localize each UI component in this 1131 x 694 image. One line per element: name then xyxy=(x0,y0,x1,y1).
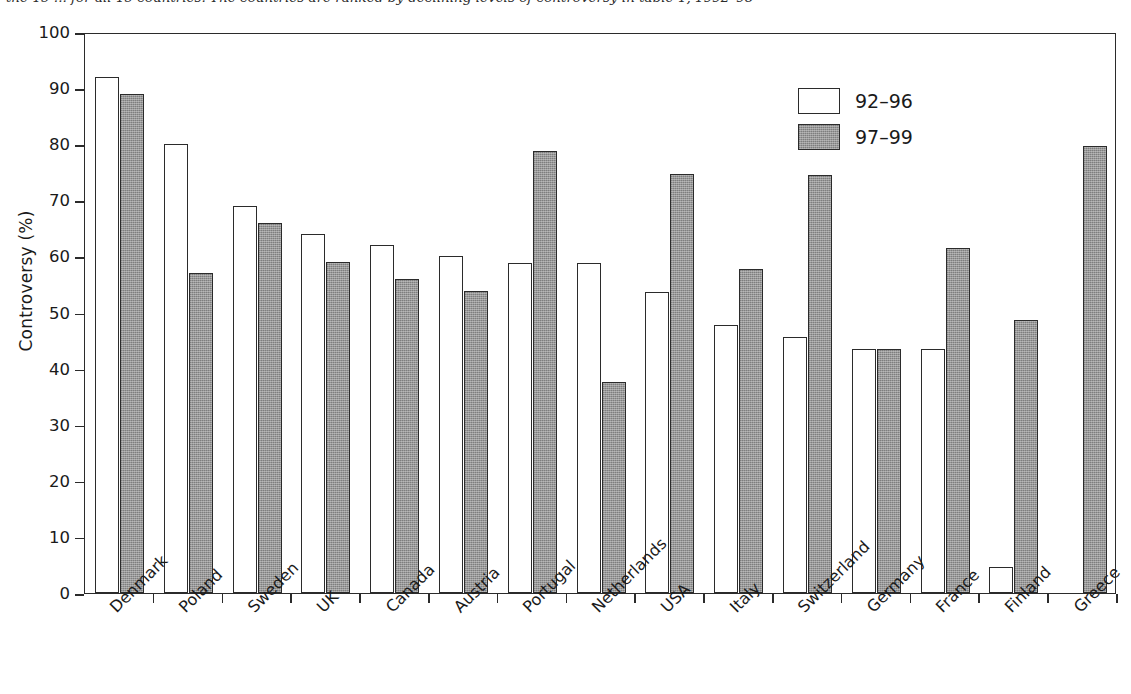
bar xyxy=(120,94,144,593)
x-axis-tick-mark xyxy=(222,594,224,603)
bar xyxy=(714,325,738,593)
legend-item: 97–99 xyxy=(798,122,913,151)
bar xyxy=(258,223,282,593)
bar xyxy=(1014,320,1038,593)
y-axis-tick-mark xyxy=(75,145,84,147)
legend-item: 92–96 xyxy=(798,86,913,115)
legend-swatch-icon xyxy=(798,88,840,114)
y-axis-tick-label: 80 xyxy=(49,135,70,154)
x-axis-tick-mark xyxy=(497,594,499,603)
y-axis-tick: 80 xyxy=(0,145,84,146)
x-axis-tick-mark xyxy=(153,594,155,603)
plot-area: 92–96 97–99 xyxy=(84,33,1116,594)
bar xyxy=(326,262,350,593)
y-axis-tick-mark xyxy=(75,257,84,259)
y-axis-tick-label: 90 xyxy=(49,79,70,98)
y-axis-tick: 60 xyxy=(0,257,84,258)
bar xyxy=(370,245,394,593)
bar xyxy=(533,151,557,593)
x-axis-tick-mark xyxy=(978,594,980,603)
legend-label: 97–99 xyxy=(855,126,913,148)
bar xyxy=(670,174,694,593)
x-axis-tick-mark xyxy=(1116,594,1118,603)
y-axis-tick-label: 60 xyxy=(49,247,70,266)
y-axis-tick: 90 xyxy=(0,89,84,90)
legend-label: 92–96 xyxy=(855,90,913,112)
bar xyxy=(989,567,1013,593)
x-axis-tick-mark xyxy=(566,594,568,603)
bar xyxy=(877,349,901,593)
bar xyxy=(95,77,119,593)
y-axis-tick: 0 xyxy=(0,594,84,595)
y-axis-tick-mark xyxy=(75,538,84,540)
y-axis-tick-mark xyxy=(75,482,84,484)
y-axis-tick: 100 xyxy=(0,33,84,34)
y-axis-tick-label: 50 xyxy=(49,304,70,323)
y-axis-title: Controversy (%) xyxy=(16,1,42,562)
y-axis-tick: 30 xyxy=(0,426,84,427)
y-axis-tick-mark xyxy=(75,426,84,428)
bar xyxy=(577,263,601,593)
x-axis-tick-mark xyxy=(634,594,636,603)
x-axis-tick-mark xyxy=(772,594,774,603)
bar xyxy=(783,337,807,593)
bar xyxy=(233,206,257,593)
bar xyxy=(301,234,325,593)
y-axis-tick-label: 70 xyxy=(49,191,70,210)
y-axis-tick-mark xyxy=(75,370,84,372)
y-axis-tick: 50 xyxy=(0,314,84,315)
x-axis-tick-mark xyxy=(359,594,361,603)
y-axis-tick-label: 10 xyxy=(49,528,70,547)
bar xyxy=(439,256,463,593)
y-axis-tick: 70 xyxy=(0,201,84,202)
bar-chart: Controversy (%) 0102030405060708090100 9… xyxy=(0,0,1131,694)
bar xyxy=(921,349,945,593)
bar xyxy=(946,248,970,593)
y-axis-tick-mark xyxy=(75,594,84,596)
legend: 92–96 97–99 xyxy=(798,86,913,158)
x-axis-tick-mark xyxy=(428,594,430,603)
y-axis-tick-mark xyxy=(75,33,84,35)
bar xyxy=(602,382,626,593)
bar xyxy=(808,175,832,594)
bar xyxy=(464,291,488,593)
y-axis-tick-mark xyxy=(75,314,84,316)
y-axis-tick-mark xyxy=(75,201,84,203)
x-axis-tick-mark xyxy=(910,594,912,603)
y-axis-tick: 20 xyxy=(0,482,84,483)
bar xyxy=(164,144,188,593)
y-axis-tick-mark xyxy=(75,89,84,91)
y-axis-tick-label: 30 xyxy=(49,416,70,435)
x-axis-tick-mark xyxy=(841,594,843,603)
y-axis-tick-label: 100 xyxy=(39,23,71,42)
x-axis-tick-mark xyxy=(1047,594,1049,603)
bar xyxy=(395,279,419,593)
legend-swatch-icon xyxy=(798,124,840,150)
bar xyxy=(1083,146,1107,593)
y-axis-tick-label: 0 xyxy=(60,584,71,603)
y-axis-tick: 10 xyxy=(0,538,84,539)
bar xyxy=(508,263,532,593)
y-axis-tick-label: 40 xyxy=(49,360,70,379)
x-axis-tick-mark xyxy=(703,594,705,603)
y-axis-tick: 40 xyxy=(0,370,84,371)
bar xyxy=(739,269,763,593)
x-axis-tick-mark xyxy=(290,594,292,603)
y-axis-tick-label: 20 xyxy=(49,472,70,491)
bar xyxy=(189,273,213,593)
